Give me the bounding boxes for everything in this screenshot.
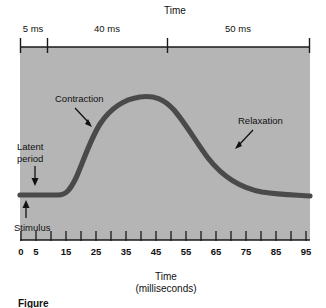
annotation-relaxation-label: Relaxation <box>238 115 283 126</box>
annotation-latent-label-line2: period <box>17 153 43 164</box>
bottom-axis-units: (milliseconds) <box>135 283 196 294</box>
bottom-tick-label-25: 25 <box>91 246 102 257</box>
top-segment-label-40ms: 40 ms <box>94 23 120 34</box>
muscle-twitch-figure: Time 5 ms 40 ms 50 ms Contraction Latent… <box>0 0 326 308</box>
top-segment-label-5ms: 5 ms <box>23 23 44 34</box>
bottom-tick-label-5: 5 <box>33 246 39 257</box>
bottom-tick-label-15: 15 <box>61 246 72 257</box>
top-segment-label-50ms: 50 ms <box>225 23 251 34</box>
bottom-tick-label-75: 75 <box>241 246 252 257</box>
bottom-axis-title: Time <box>155 271 177 282</box>
plot-background <box>20 47 310 240</box>
bottom-tick-label-35: 35 <box>121 246 132 257</box>
figure-canvas: Time 5 ms 40 ms 50 ms Contraction Latent… <box>0 0 326 308</box>
annotation-contraction-label: Contraction <box>55 93 104 104</box>
bottom-tick-label-85: 85 <box>271 246 282 257</box>
figure-caption: Figure <box>18 298 49 308</box>
bottom-tick-label-45: 45 <box>151 246 162 257</box>
bottom-axis-tick-labels: 0 5 15 25 35 45 55 65 75 85 95 <box>18 246 312 257</box>
top-axis-title: Time <box>164 5 186 16</box>
bottom-tick-label-0: 0 <box>18 246 23 257</box>
bottom-tick-label-65: 65 <box>211 246 222 257</box>
annotation-latent-label-line1: Latent <box>17 141 44 152</box>
bottom-tick-label-55: 55 <box>181 246 192 257</box>
annotation-stimulus-label: Stimulus <box>14 222 51 233</box>
bottom-tick-label-95: 95 <box>301 246 312 257</box>
